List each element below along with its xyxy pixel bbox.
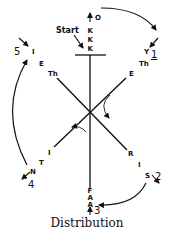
arrow-into-1 — [150, 38, 158, 47]
upper-left-letter-1: I — [32, 48, 35, 56]
upper-left-number: 5 — [14, 46, 20, 57]
upper-left-letter-2: E — [39, 60, 44, 68]
top-arrow-label: O — [95, 14, 101, 22]
upper-right-number: 1 — [151, 49, 157, 60]
lower-right-letter-1: R — [128, 150, 134, 158]
lower-right-letter-3: S — [145, 172, 150, 180]
top-letter-3: K — [88, 45, 94, 53]
arc-arrow-top — [101, 8, 156, 30]
lower-left-letter-1: I — [48, 149, 51, 157]
lower-left-letter-3: N — [30, 168, 36, 176]
distribution-diagram: Start O K K K 5 I E Th 1 Y Th E I T N 4 … — [0, 0, 174, 231]
upper-right-letter-1: Y — [143, 48, 150, 56]
arc-arrow-left — [13, 60, 28, 165]
lower-left-number: 4 — [28, 179, 34, 190]
arrow-out-of-4 — [22, 172, 30, 179]
arrow-into-5 — [19, 38, 28, 46]
upper-right-letter-3: E — [129, 70, 134, 78]
lower-left-letter-2: T — [39, 159, 44, 167]
diagonal-line-left-to-right — [57, 78, 127, 150]
lower-right-letter-2: I — [138, 161, 141, 169]
diagram-title: Distribution — [50, 216, 123, 230]
start-arrow — [74, 35, 83, 48]
arc-arrow-bottom — [99, 183, 146, 205]
upper-left-letter-3: Th — [48, 70, 58, 78]
top-letter-1: K — [88, 27, 94, 35]
lower-right-number: 2 — [155, 171, 161, 182]
bottom-number: 3 — [94, 205, 100, 216]
start-label: Start — [56, 26, 79, 35]
top-letter-2: K — [88, 36, 94, 44]
upper-right-letter-2: Th — [139, 60, 149, 68]
